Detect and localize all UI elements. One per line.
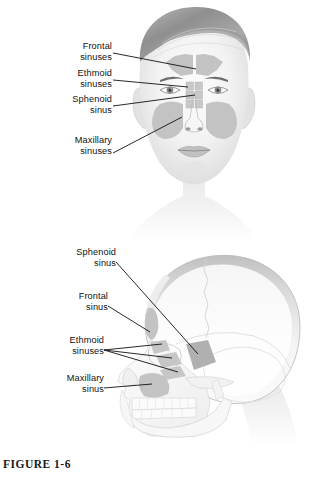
lower-teeth [132,408,196,419]
label-line-2: sinus [34,105,112,116]
label-sphenoid-sinus-anterior: Sphenoid sinus [34,94,112,115]
label-line-2: sinus [38,258,116,269]
label-frontal-sinus-lateral: Frontal sinus [30,291,108,312]
label-line-1: Maxillary [26,373,104,384]
shoulder-shape [128,198,258,240]
lateral-view-panel: Sphenoid sinus Frontal sinus Ethmoid sin… [0,240,311,445]
label-line-2: sinuses [34,52,112,63]
label-line-2: sinus [30,302,108,313]
label-frontal-sinuses-anterior: Frontal sinuses [34,41,112,62]
label-line-1: Ethmoid [34,68,112,79]
anterior-face-illustration [0,0,311,240]
label-maxillary-sinus-lateral: Maxillary sinus [26,373,104,394]
label-line-1: Frontal [30,291,108,302]
label-line-1: Sphenoid [34,94,112,105]
label-line-2: sinuses [26,346,104,357]
label-line-1: Maxillary [34,135,112,146]
anterior-view-panel: Frontal sinuses Ethmoid sinuses Sphenoid… [0,0,311,240]
label-maxillary-sinuses-anterior: Maxillary sinuses [34,135,112,156]
label-line-2: sinuses [34,79,112,90]
figure-caption: FIGURE 1-6 [3,458,71,470]
right-nostril [197,127,202,130]
label-sphenoid-sinus-lateral: Sphenoid sinus [38,247,116,268]
figure-page: Frontal sinuses Ethmoid sinuses Sphenoid… [0,0,311,483]
label-line-1: Sphenoid [38,247,116,258]
chin-shading [181,161,207,175]
label-ethmoid-sinuses-anterior: Ethmoid sinuses [34,68,112,89]
left-nostril [185,127,190,130]
label-line-1: Ethmoid [26,335,104,346]
label-ethmoid-sinuses-lateral: Ethmoid sinuses [26,335,104,356]
label-line-1: Frontal [34,41,112,52]
leader-frontal [108,306,150,332]
label-line-2: sinuses [34,146,112,157]
label-line-2: sinus [26,384,104,395]
